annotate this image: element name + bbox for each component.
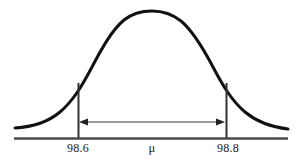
interval-arrow-head-left (79, 119, 88, 126)
tick-label-upper: 98.8 (208, 142, 248, 154)
tick-label-mean: μ (137, 142, 167, 155)
interval-arrow (79, 119, 225, 126)
normal-curve-path (15, 11, 288, 129)
tick-label-lower: 98.6 (58, 142, 98, 154)
bell-curve-figure: 98.6 μ 98.8 (0, 0, 297, 161)
normal-distribution-chart (0, 0, 297, 161)
interval-arrow-head-right (216, 119, 225, 126)
